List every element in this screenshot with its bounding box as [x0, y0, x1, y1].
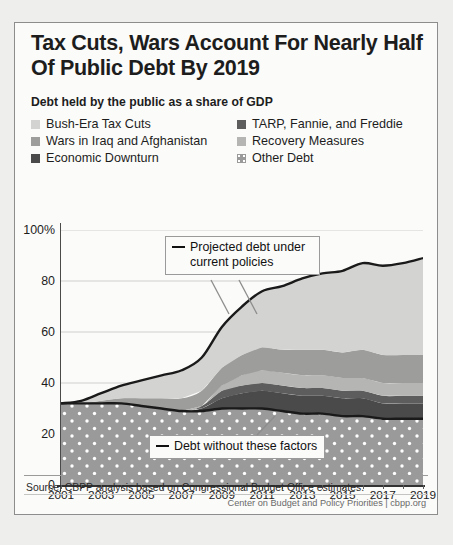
annotation-debt-without-factors: Debt without these factors	[149, 435, 325, 459]
legend-item-economic-downturn: Economic Downturn	[31, 151, 237, 165]
annotation-text-line2: current policies	[190, 255, 312, 270]
annotation-projected-debt: Projected debt under current policies	[165, 236, 320, 275]
legend-row: Wars in Iraq and Afghanistan Recovery Me…	[31, 134, 427, 148]
legend-swatch-recovery-measures	[237, 137, 246, 146]
credit-text: Center on Budget and Policy Priorities |…	[16, 495, 436, 513]
legend: Bush-Era Tax Cuts TARP, Fannie, and Fred…	[31, 117, 427, 168]
legend-label: Wars in Iraq and Afghanistan	[46, 134, 207, 148]
annotation-text-line1: Projected debt under	[190, 240, 305, 254]
y-tick-label: 60	[41, 325, 55, 339]
annotation-dash-icon	[172, 246, 185, 248]
annotation-text-line1: Debt without these factors	[174, 439, 317, 453]
legend-item-other-debt: Other Debt	[237, 151, 427, 165]
legend-label: Economic Downturn	[46, 151, 159, 165]
legend-label: TARP, Fannie, and Freddie	[252, 117, 403, 131]
legend-row: Bush-Era Tax Cuts TARP, Fannie, and Fred…	[31, 117, 427, 131]
y-tick-label: 20	[41, 427, 55, 441]
chart-page: Tax Cuts, Wars Account For Nearly Half O…	[0, 0, 453, 545]
legend-swatch-tarp-fannie-freddie	[237, 120, 246, 129]
y-tick-label: 40	[41, 376, 55, 390]
legend-swatch-economic-downturn	[31, 154, 40, 163]
plot-area: 020406080100% 20012003200520072009201120…	[61, 230, 423, 485]
y-tick-label: 80	[41, 274, 55, 288]
chart-subtitle: Debt held by the public as a share of GD…	[31, 95, 273, 109]
footer: Source: CBPP analysis based on Congressi…	[16, 475, 436, 513]
annotation-dash-icon	[156, 445, 169, 447]
legend-item-tarp-fannie-freddie: TARP, Fannie, and Freddie	[237, 117, 427, 131]
page-title: Tax Cuts, Wars Account For Nearly Half O…	[31, 31, 431, 82]
legend-swatch-wars-iraq-afghanistan	[31, 137, 40, 146]
source-text: Source: CBPP analysis based on Congressi…	[16, 476, 436, 494]
chart-card: Tax Cuts, Wars Account For Nearly Half O…	[14, 22, 438, 515]
legend-swatch-other-debt	[237, 154, 246, 163]
legend-label: Bush-Era Tax Cuts	[46, 117, 151, 131]
legend-row: Economic Downturn Other Debt	[31, 151, 427, 165]
legend-item-recovery-measures: Recovery Measures	[237, 134, 427, 148]
legend-item-bush-era-tax-cuts: Bush-Era Tax Cuts	[31, 117, 237, 131]
legend-item-wars-iraq-afghanistan: Wars in Iraq and Afghanistan	[31, 134, 237, 148]
legend-label: Recovery Measures	[252, 134, 364, 148]
legend-label: Other Debt	[252, 151, 314, 165]
y-tick-label: 100%	[23, 223, 55, 237]
legend-swatch-bush-era-tax-cuts	[31, 120, 40, 129]
